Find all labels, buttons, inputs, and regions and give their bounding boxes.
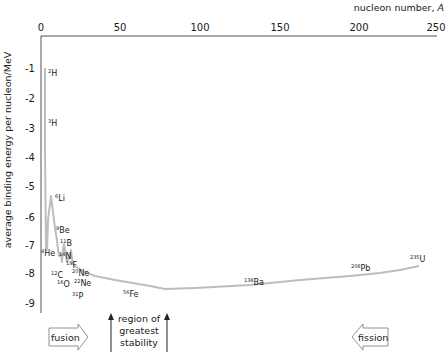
arrow-head-icon bbox=[108, 313, 114, 320]
x-tick: 50 bbox=[114, 22, 127, 33]
stability-label-line1: region of bbox=[118, 313, 161, 324]
nuclide-labels: 2H 3H 6Li 9Be 11B 4He 14N 19F 12C 20Ne 1… bbox=[41, 68, 426, 301]
y-tick: -2 bbox=[25, 93, 35, 104]
fission-arrow: fission bbox=[352, 324, 388, 350]
fission-label: fission bbox=[358, 332, 388, 343]
binding-energy-chart: nucleon number, A 0 50 100 150 200 250 -… bbox=[0, 0, 447, 356]
y-tick: -4 bbox=[25, 152, 35, 163]
stability-label-line3: stability bbox=[120, 337, 158, 348]
y-tick: -8 bbox=[25, 268, 35, 279]
label-208Pb: 208Pb bbox=[351, 263, 370, 273]
fusion-arrow: fusion bbox=[49, 324, 88, 350]
x-tick: 200 bbox=[349, 22, 368, 33]
y-tick: -1 bbox=[25, 63, 35, 74]
y-tick: -5 bbox=[25, 181, 35, 192]
fusion-label: fusion bbox=[51, 332, 80, 343]
stability-region: region of greatest stability bbox=[108, 313, 170, 352]
label-20Ne: 20Ne bbox=[72, 268, 89, 278]
binding-energy-curve bbox=[45, 68, 419, 289]
label-4He: 4He bbox=[41, 248, 55, 258]
label-31P: 31P bbox=[72, 291, 83, 301]
x-axis-ticks: 0 50 100 150 200 250 bbox=[38, 22, 446, 33]
y-tick: -9 bbox=[25, 298, 35, 309]
label-11B: 11B bbox=[60, 238, 72, 248]
label-22Ne: 22Ne bbox=[74, 278, 91, 288]
label-2H: 2H bbox=[48, 68, 57, 78]
y-axis-ticks: -1 -2 -3 -4 -5 -6 -7 -8 -9 bbox=[25, 63, 35, 309]
label-3H: 3H bbox=[48, 118, 57, 128]
x-tick: 0 bbox=[38, 22, 44, 33]
x-tick: 100 bbox=[190, 22, 209, 33]
label-16O: 16O bbox=[57, 279, 70, 289]
label-56Fe: 56Fe bbox=[123, 289, 139, 299]
y-axis-title: average binding energy per nucleon/MeV bbox=[2, 51, 13, 248]
label-6Li: 6Li bbox=[55, 193, 65, 203]
x-tick: 250 bbox=[426, 22, 445, 33]
stability-label-line2: greatest bbox=[119, 325, 159, 336]
label-235U: 235U bbox=[410, 254, 426, 264]
y-tick: -3 bbox=[25, 123, 35, 134]
x-axis-title: nucleon number, A bbox=[354, 2, 444, 13]
y-tick: -6 bbox=[25, 212, 35, 223]
arrow-head-icon bbox=[164, 313, 170, 320]
label-9Be: 9Be bbox=[56, 225, 70, 235]
y-tick: -7 bbox=[25, 240, 35, 251]
x-tick: 150 bbox=[270, 22, 289, 33]
